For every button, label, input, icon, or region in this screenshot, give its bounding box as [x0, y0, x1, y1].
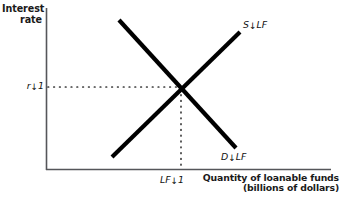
y-axis-title-line1: Interest — [2, 3, 44, 14]
demand-curve — [119, 20, 236, 148]
x-axis-title-line2: (billions of dollars) — [243, 182, 339, 193]
loanable-funds-diagram: Interestrate Quantity of loanable funds(… — [0, 0, 341, 206]
y-axis-title-line2: rate — [20, 14, 42, 25]
equilibrium-quantity-index: 1 — [178, 174, 184, 185]
demand-curve-index: LF — [236, 151, 247, 162]
demand-curve-base: D — [221, 151, 228, 162]
supply-curve — [112, 32, 240, 157]
supply-curve-index: LF — [257, 19, 268, 30]
x-axis-title: Quantity of loanable funds(billions of d… — [193, 173, 339, 194]
subscript-arrow-icon: ↓ — [249, 21, 257, 31]
demand-curve-label: D↓LF — [221, 152, 246, 163]
y-axis-title: Interestrate — [2, 4, 42, 25]
equilibrium-quantity-label: LF↓1 — [152, 175, 192, 186]
subscript-arrow-icon: ↓ — [30, 82, 38, 92]
subscript-arrow-icon: ↓ — [171, 176, 179, 186]
equilibrium-quantity-base: LF — [160, 174, 171, 185]
subscript-arrow-icon: ↓ — [228, 153, 236, 163]
x-axis-title-line1: Quantity of loanable funds — [203, 172, 339, 183]
equilibrium-rate-index: 1 — [38, 80, 44, 91]
supply-curve-label: S↓LF — [243, 20, 267, 31]
equilibrium-rate-label: r↓1 — [16, 81, 44, 92]
